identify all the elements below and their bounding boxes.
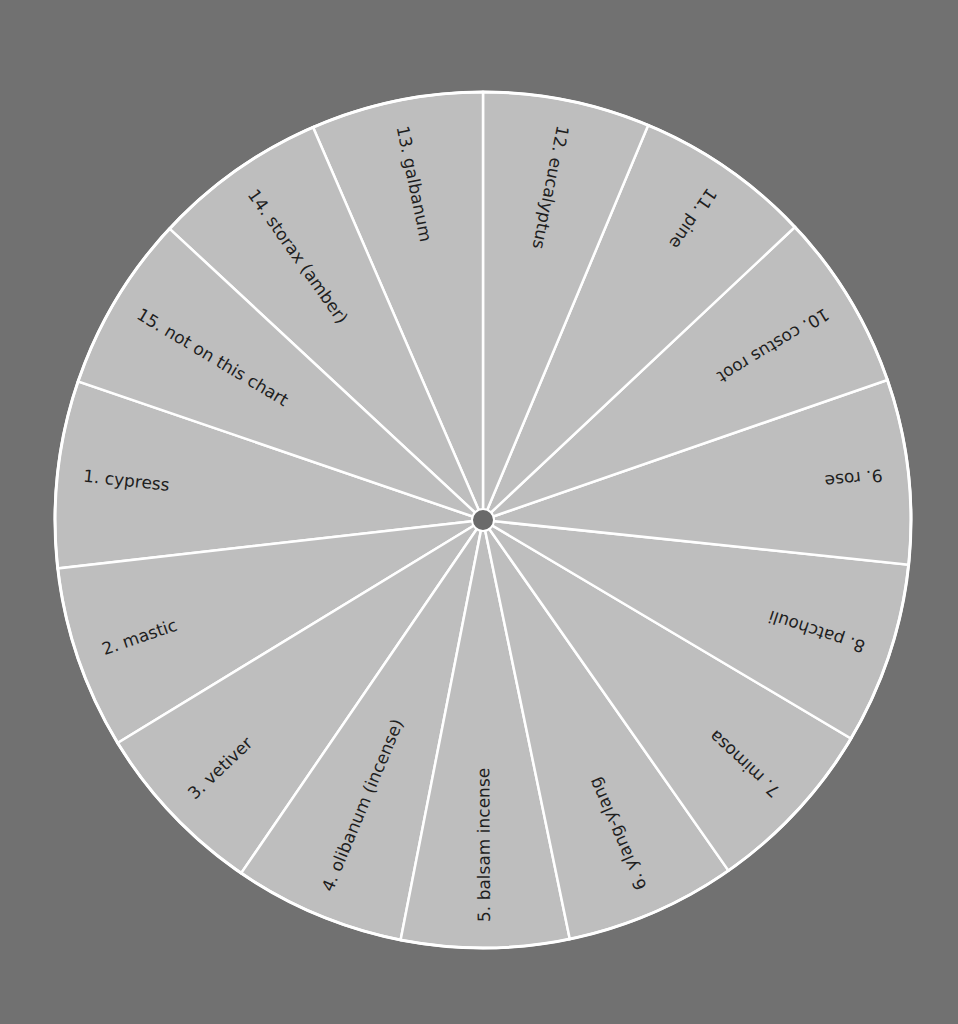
wedge-label: 5. balsam incense [473,768,494,922]
aroma-wheel: 1. cypress2. mastic3. vetiver4. olibanum… [0,0,958,1024]
wheel-hub-dot [472,509,494,531]
aroma-wheel-diagram: 1. cypress2. mastic3. vetiver4. olibanum… [0,0,958,1024]
